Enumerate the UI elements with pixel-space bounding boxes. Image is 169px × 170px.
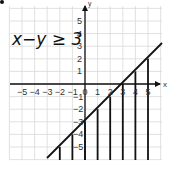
x-tick-label: 5 <box>146 87 151 97</box>
x-tick-label: −5 <box>17 87 27 97</box>
y-axis-label: y <box>88 0 92 8</box>
y-tick-label: 2 <box>77 54 82 64</box>
boundary-line <box>47 43 162 158</box>
x-tick-label: −2 <box>55 87 65 97</box>
x-tick-label: 2 <box>108 87 113 97</box>
y-tick-label: −1 <box>73 92 83 102</box>
x-tick-label: 3 <box>120 87 125 97</box>
y-tick-label: 5 <box>77 16 82 26</box>
y-tick-label: −5 <box>73 142 83 152</box>
coordinate-graph: −5−4−3−2−101234512345−1−2−3−4−5 x y x−y … <box>0 0 169 170</box>
y-tick-label: 1 <box>77 66 82 76</box>
x-tick-label: −4 <box>30 87 40 97</box>
y-tick-label: −4 <box>73 129 83 139</box>
y-tick-label: −2 <box>73 104 83 114</box>
y-tick-label: −3 <box>73 117 83 127</box>
inequality-label: x−y ≥ 3 <box>11 29 82 49</box>
x-tick-label: 1 <box>95 87 100 97</box>
x-axis-label: x <box>163 80 167 89</box>
x-tick-label: −3 <box>42 87 52 97</box>
x-tick-label: 4 <box>133 87 138 97</box>
x-axis-arrow-icon <box>155 81 161 87</box>
